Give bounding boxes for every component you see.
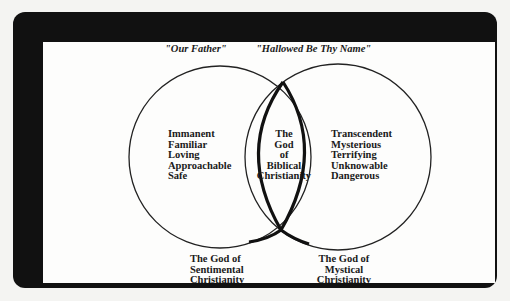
attribute-immanent: Immanent <box>168 129 231 140</box>
venn-diagram-canvas: "Our Father" "Hallowed Be Thy Name" Imma… <box>43 42 495 283</box>
caption-mystical-christianity: The God of Mystical Christianity <box>313 254 375 283</box>
heading-hallowed-be-thy-name: "Hallowed Be Thy Name" <box>256 43 371 54</box>
right-attributes-list: Transcendent Mysterious Terrifying Unkno… <box>331 129 392 182</box>
picture-frame-border: "Our Father" "Hallowed Be Thy Name" Imma… <box>13 12 497 288</box>
left-attributes-list: Immanent Familiar Loving Approachable Sa… <box>168 129 231 182</box>
caption-right-line-1: The God of <box>313 254 375 265</box>
intersection-line-5: Christianity <box>251 171 317 182</box>
caption-left-line-3: Christianity <box>190 275 244 283</box>
caption-left-line-1: The God of <box>190 254 244 265</box>
caption-sentimental-christianity: The God of Sentimental Christianity <box>190 254 244 283</box>
intersection-line-1: The <box>251 129 317 140</box>
attribute-transcendent: Transcendent <box>331 129 392 140</box>
heading-our-father: "Our Father" <box>165 43 227 54</box>
attribute-dangerous: Dangerous <box>331 171 392 182</box>
attribute-safe: Safe <box>168 171 231 182</box>
intersection-label: The God of Biblical Christianity <box>251 129 317 182</box>
caption-right-line-3: Christianity <box>313 275 375 283</box>
